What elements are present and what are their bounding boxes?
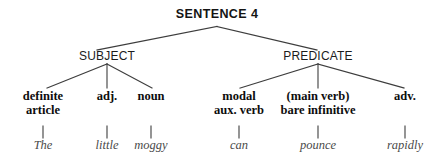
edge-root-to-predicate [217, 27, 317, 51]
node-bare-infinitive-line2: bare infinitive [280, 104, 355, 118]
edge-root-to-subject [97, 27, 217, 51]
page-title: SENTENCE 4 [176, 8, 259, 22]
edge-subject-to-definite-article [47, 64, 107, 88]
word-the: The [34, 139, 53, 153]
node-noun: noun [137, 90, 164, 104]
node-adv: adv. [394, 90, 416, 104]
node-adj: adj. [97, 90, 118, 104]
node-bare-infinitive: (main verb) bare infinitive [280, 90, 355, 117]
node-modal-aux-verb-line2: aux. verb [214, 104, 264, 118]
node-bare-infinitive-line1: (main verb) [287, 89, 350, 103]
word-moggy: moggy [134, 139, 167, 153]
word-can: can [230, 139, 248, 153]
node-definite-article-line1: definite [23, 89, 63, 103]
word-rapidly: rapidly [387, 139, 423, 153]
node-modal-aux-verb-line1: modal [222, 89, 255, 103]
node-predicate: PREDICATE [283, 50, 353, 63]
tree-connector-lines [0, 0, 442, 159]
node-definite-article-line2: article [23, 104, 63, 118]
word-pounce: pounce [300, 139, 336, 153]
node-adv-line1: adv. [394, 89, 416, 103]
node-adj-line1: adj. [97, 89, 118, 103]
word-little: little [96, 139, 119, 153]
node-noun-line1: noun [137, 89, 164, 103]
edge-predicate-to-adv [318, 64, 404, 88]
node-subject: SUBJECT [79, 50, 135, 63]
node-modal-aux-verb: modal aux. verb [214, 90, 264, 117]
edge-subject-to-noun [107, 64, 152, 88]
sentence-tree-diagram: SENTENCE 4 SUBJECT PREDICATE definite ar… [0, 0, 442, 159]
node-definite-article: definite article [23, 90, 63, 117]
edge-predicate-to-modal-aux-verb [240, 64, 318, 88]
